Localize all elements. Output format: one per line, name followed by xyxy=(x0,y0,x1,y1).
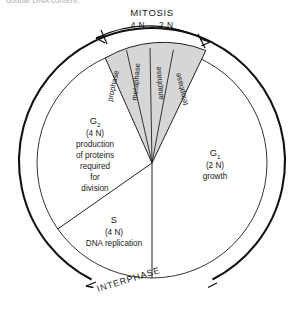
g2-desc-line-4: for xyxy=(90,173,100,182)
interphase-label: INTERPHASE xyxy=(96,265,162,294)
g2-desc-line-1: production xyxy=(76,140,115,149)
sector-label-g1: G1 (2 N) growth xyxy=(203,147,228,181)
sector-label-g2: G2 (4 N) production of proteins required… xyxy=(76,115,115,193)
sector-label-s: S (4 N) DNA replication xyxy=(86,214,143,248)
g2-subscript: 2 xyxy=(97,121,101,128)
g1-subscript: 1 xyxy=(217,153,221,160)
g1-name: G xyxy=(210,147,217,158)
s-description: DNA replication xyxy=(86,239,143,248)
g2-ploidy: (4 N) xyxy=(86,129,104,138)
svg-text:G2: G2 xyxy=(90,115,101,128)
g2-desc-line-2: of proteins xyxy=(76,151,114,160)
g2-desc-line-5: division xyxy=(81,184,109,193)
interphase-label-group: INTERPHASE xyxy=(96,265,162,294)
g2-desc-line-3: required xyxy=(80,162,110,171)
interphase-arrow-left xyxy=(86,282,96,288)
g1-description: growth xyxy=(203,172,228,181)
s-name: S xyxy=(111,214,117,225)
cell-cycle-figure: MITOSIS 4 N → 2 N prophase metaphase ana… xyxy=(0,0,298,326)
interphase-arrow-right xyxy=(208,283,217,288)
g1-ploidy: (2 N) xyxy=(206,161,224,170)
mitosis-subtitle: 4 N → 2 N xyxy=(131,20,174,30)
g2-name: G xyxy=(90,115,97,126)
cell-cycle-diagram: double DNA content. xyxy=(0,0,298,326)
s-ploidy: (4 N) xyxy=(105,228,123,237)
mitosis-title: MITOSIS xyxy=(130,7,173,18)
divider-g2-s xyxy=(58,163,152,229)
partial-caption-text: double DNA content. xyxy=(6,0,79,5)
svg-text:G1: G1 xyxy=(210,147,221,160)
